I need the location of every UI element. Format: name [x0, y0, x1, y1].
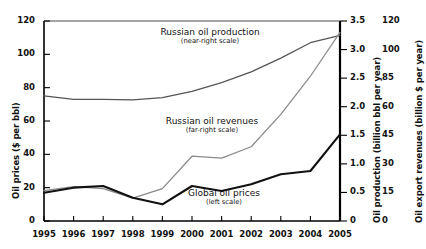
series-annotation-global-oil-prices: Global oil prices (left scale) — [170, 188, 278, 206]
far-right-axis-tick-labels-5: 85 — [382, 72, 394, 82]
left-axis-tick-labels-0: 0 — [0, 215, 35, 225]
far-right-axis-tick-labels-1: 15 — [382, 186, 394, 196]
x-axis-tick-label-2004: 2004 — [295, 229, 325, 239]
left-axis-tick-labels-4: 80 — [0, 82, 35, 92]
left-axis-tick-labels-6: 120 — [0, 15, 35, 25]
x-axis-tick-label-2005: 2005 — [325, 229, 355, 239]
far-right-axis-tick-labels-4: 60 — [382, 101, 394, 111]
x-axis-tick-label-1996: 1996 — [59, 229, 89, 239]
near-right-axis-tick-labels-4: 2.0 — [350, 101, 365, 111]
near-right-axis-title: Oil production (billion bbl per year) — [372, 57, 382, 223]
near-right-axis-tick-labels-1: 0.5 — [350, 186, 365, 196]
near-right-axis-tick-labels-5: 2.5 — [350, 72, 365, 82]
chart-container: Oil prices ($ per bbl) Oil production (b… — [0, 0, 426, 249]
far-right-axis-tick-labels-2: 30 — [382, 158, 394, 168]
x-axis-tick-label-2000: 2000 — [177, 229, 207, 239]
left-axis-tick-labels-2: 40 — [0, 148, 35, 158]
series-annotation-revenues-name: Russian oil revenues — [166, 116, 258, 126]
near-right-axis-tick-labels-7: 3.5 — [350, 15, 365, 25]
x-axis-tick-label-2003: 2003 — [266, 229, 296, 239]
series-annotation-revenues-scale: (far-right scale) — [152, 126, 272, 134]
x-axis-tick-label-2001: 2001 — [207, 229, 237, 239]
far-right-axis-tick-labels-7: 120 — [382, 15, 400, 25]
near-right-axis-tick-labels-3: 1.5 — [350, 129, 365, 139]
near-right-axis-tick-labels-0: 0 — [350, 215, 356, 225]
series-annotation-russian-oil-production: Russian oil production (near-right scale… — [150, 27, 270, 45]
near-right-axis-tick-labels-6: 3.0 — [350, 44, 365, 54]
far-right-axis-tick-labels-6: 100 — [382, 44, 400, 54]
x-axis-tick-label-1997: 1997 — [88, 229, 118, 239]
series-annotation-russian-oil-revenues: Russian oil revenues (far-right scale) — [152, 116, 272, 134]
series-annotation-prices-name: Global oil prices — [188, 188, 260, 198]
x-axis-tick-label-1999: 1999 — [147, 229, 177, 239]
left-axis-tick-labels-3: 60 — [0, 115, 35, 125]
x-axis-tick-label-2002: 2002 — [236, 229, 266, 239]
series-annotation-production-name: Russian oil production — [160, 27, 259, 37]
series-annotation-prices-scale: (left scale) — [170, 198, 278, 206]
x-axis-tick-label-1995: 1995 — [29, 229, 59, 239]
x-axis-tick-label-1998: 1998 — [118, 229, 148, 239]
far-right-axis-title: Oil export revenues (billion $ per year) — [414, 40, 424, 223]
left-axis-tick-labels-5: 100 — [0, 48, 35, 58]
far-right-axis-tick-labels-3: 45 — [382, 129, 394, 139]
series-annotation-production-scale: (near-right scale) — [150, 37, 270, 45]
far-right-axis-tick-labels-0: 0 — [382, 215, 388, 225]
left-axis-tick-labels-1: 20 — [0, 182, 35, 192]
near-right-axis-tick-labels-2: 1.0 — [350, 158, 365, 168]
